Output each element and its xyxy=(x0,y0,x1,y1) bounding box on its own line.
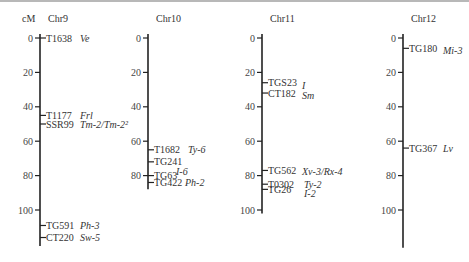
tick-label: 100 xyxy=(18,205,33,216)
gene-label: Lv xyxy=(442,143,454,154)
marker-label: TG180 xyxy=(409,43,437,54)
tick-label: 60 xyxy=(131,136,141,147)
tick-label: 60 xyxy=(245,136,255,147)
gene-label: Ph-2 xyxy=(184,177,204,188)
tick-label: 0 xyxy=(391,33,396,44)
gene-label: Tm-2/Tm-2² xyxy=(80,119,129,130)
tick-label: 80 xyxy=(131,170,141,181)
chromosome-title: Chr9 xyxy=(48,13,68,24)
marker-label: TG562 xyxy=(268,165,296,176)
marker-label: TG422 xyxy=(154,177,182,188)
marker-label: TG591 xyxy=(46,220,74,231)
tick-label: 40 xyxy=(386,101,396,112)
gene-label: Ve xyxy=(80,33,90,44)
gene-label: Xv-3/Rx-4 xyxy=(301,166,343,177)
tick-label: 80 xyxy=(245,170,255,181)
gene-label: Ph-3 xyxy=(79,220,99,231)
marker-label: CT182 xyxy=(268,88,296,99)
tick-label: 40 xyxy=(245,101,255,112)
chromosome-title: Chr12 xyxy=(411,13,436,24)
tick-label: 40 xyxy=(131,101,141,112)
unit-label: cM xyxy=(22,13,35,24)
tick-label: 20 xyxy=(386,67,396,78)
gene-label: Sm xyxy=(302,90,314,101)
tick-label: 20 xyxy=(245,67,255,78)
marker-label: CT220 xyxy=(46,232,74,243)
marker-label: T1682 xyxy=(154,144,180,155)
tick-label: 80 xyxy=(386,170,396,181)
tick-label: 60 xyxy=(386,136,396,147)
gene-label: Mi-3 xyxy=(442,45,462,56)
marker-label: TG26 xyxy=(268,184,291,195)
gene-label: Ty-6 xyxy=(188,144,206,155)
tick-label: 100 xyxy=(240,205,255,216)
tick-label: 0 xyxy=(250,33,255,44)
chromosome-title: Chr11 xyxy=(270,13,295,24)
genetic-linkage-map: cMChr9020406080100T1638VeT1177FrlSSR99Tm… xyxy=(0,0,469,262)
tick-label: 60 xyxy=(23,136,33,147)
tick-label: 20 xyxy=(23,67,33,78)
marker-label: TG367 xyxy=(409,143,437,154)
tick-label: 20 xyxy=(131,67,141,78)
tick-label: 80 xyxy=(23,170,33,181)
gene-label: Sw-5 xyxy=(80,232,100,243)
tick-label: 0 xyxy=(136,33,141,44)
gene-label: I-2 xyxy=(303,188,316,199)
tick-label: 40 xyxy=(23,101,33,112)
marker-label: SSR99 xyxy=(46,119,74,130)
tick-label: 100 xyxy=(381,205,396,216)
tick-label: 0 xyxy=(28,33,33,44)
chromosome-title: Chr10 xyxy=(156,13,181,24)
marker-label: T1638 xyxy=(46,33,72,44)
